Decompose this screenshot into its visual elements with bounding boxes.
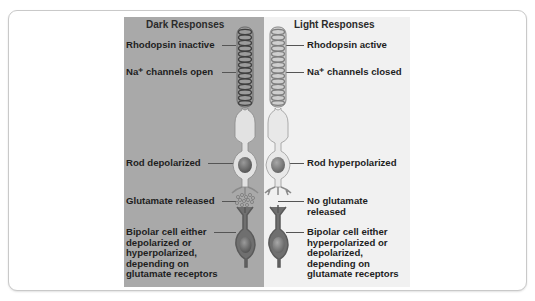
dark-rod-cell	[232, 27, 258, 267]
rod-response-figure: Dark Responses Rhodopsin inactive Na⁺ ch…	[124, 17, 410, 287]
rod-cell-illustrations	[124, 17, 410, 287]
glutamate-vesicles	[235, 193, 254, 206]
light-rod-cell	[265, 27, 291, 267]
